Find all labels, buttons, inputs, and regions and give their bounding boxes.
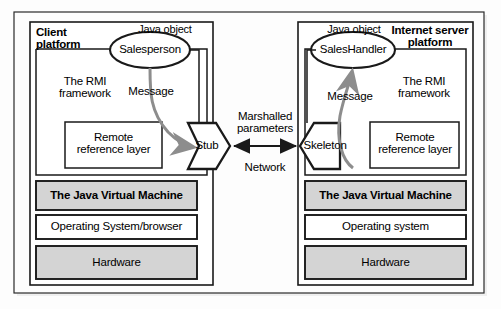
right-hardware-label: Hardware: [305, 256, 466, 268]
saleshandler-label: SalesHandler: [310, 43, 396, 55]
left-java-object-caption: Java object: [120, 24, 210, 36]
right-os-label: Operating system: [305, 220, 466, 232]
server-platform-title: Internet server platform: [388, 24, 472, 48]
left-jvm-label: The Java Virtual Machine: [36, 189, 197, 201]
left-message-label: Message: [119, 85, 183, 97]
left-os-label: Operating System/browser: [36, 220, 197, 232]
salesperson-label: Salesperson: [110, 43, 190, 55]
stub-label: Stub: [189, 139, 225, 151]
right-jvm-label: The Java Virtual Machine: [305, 189, 466, 201]
right-remote-reference-layer-label: Remote reference layer: [371, 131, 459, 155]
left-remote-reference-layer-label: Remote reference layer: [63, 131, 164, 155]
right-java-object-caption: Java object: [318, 24, 390, 36]
diagram-canvas: Client platform Java object Salesperson …: [0, 0, 501, 309]
right-message-label: Message: [318, 90, 382, 102]
left-rmi-framework-label: The RMI framework: [42, 75, 128, 99]
skeleton-label: Skeleton: [301, 139, 349, 151]
right-rmi-framework-label: The RMI framework: [384, 75, 464, 99]
network-label: Network: [224, 161, 306, 173]
marshalled-parameters-label: Marshalled parameters: [218, 110, 312, 134]
left-hardware-label: Hardware: [36, 256, 197, 268]
